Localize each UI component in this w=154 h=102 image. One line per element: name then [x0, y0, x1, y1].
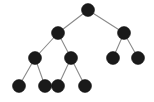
tree-edge-layer — [19, 10, 138, 86]
tree-node — [29, 52, 42, 65]
tree-canvas — [0, 0, 154, 102]
tree-node — [65, 52, 78, 65]
tree-node — [79, 80, 92, 93]
tree-node — [52, 27, 65, 40]
tree-node — [107, 52, 120, 65]
tree-node — [52, 80, 65, 93]
tree-node — [39, 80, 52, 93]
tree-node — [82, 4, 95, 17]
tree-node — [118, 27, 131, 40]
tree-node — [13, 80, 26, 93]
tree-node — [132, 52, 145, 65]
binary-tree-figure — [0, 0, 154, 102]
